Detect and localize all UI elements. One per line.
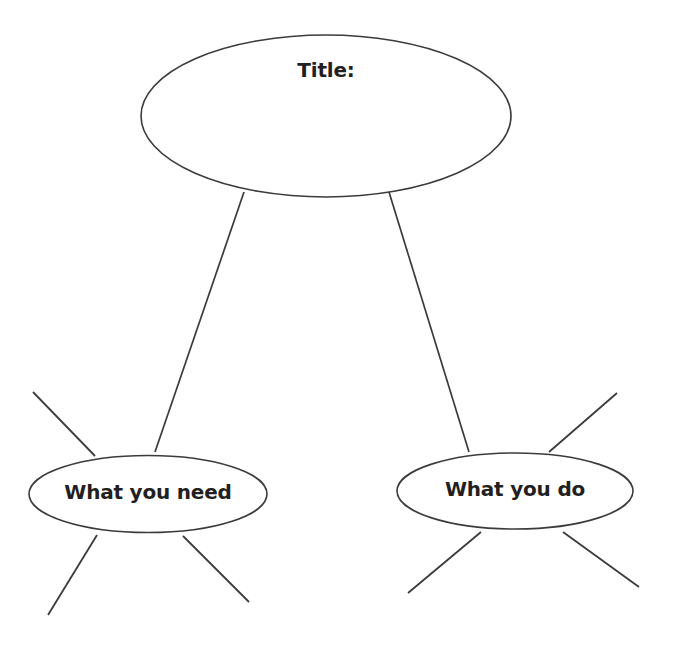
graphic-organizer-diagram — [0, 0, 673, 651]
node-label-title: Title: — [141, 58, 511, 82]
node-label-what-you-do: What you do — [397, 476, 633, 502]
spoke-what-you-do-lower-left — [408, 532, 481, 593]
spoke-what-you-need-lower-left — [48, 535, 97, 615]
spoke-what-you-do-lower-right — [563, 532, 639, 587]
connector-title-to-what-you-do — [389, 192, 469, 452]
spoke-what-you-need-lower-right — [183, 536, 249, 602]
spoke-what-you-need-upper-left — [33, 392, 95, 456]
spoke-what-you-do-upper-right — [549, 393, 617, 452]
diagram-canvas: Title: What you need What you do — [0, 0, 673, 651]
node-label-what-you-need: What you need — [29, 479, 267, 505]
connector-title-to-what-you-need — [155, 192, 244, 452]
